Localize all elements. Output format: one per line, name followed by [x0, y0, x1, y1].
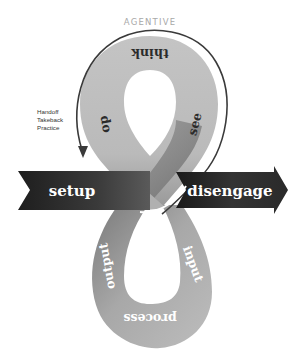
side-notes: Handoff Takeback Practice — [37, 108, 64, 131]
disengage-label: disengage — [187, 182, 272, 200]
process-label: process — [123, 311, 176, 326]
side-note-handoff: Handoff — [37, 108, 59, 115]
disengage-band: disengage — [176, 166, 288, 214]
side-note-practice: Practice — [37, 124, 60, 131]
do-label: do — [98, 114, 116, 133]
agentive-figure-eight-diagram: AGENTIVE setup disengage think do see ou… — [0, 0, 304, 357]
setup-band: setup — [18, 171, 150, 210]
setup-label: setup — [49, 182, 95, 200]
think-label: think — [131, 46, 169, 61]
arc-arrowhead-icon — [78, 146, 88, 158]
agentive-title: AGENTIVE — [124, 17, 176, 27]
side-note-takeback: Takeback — [37, 116, 64, 123]
